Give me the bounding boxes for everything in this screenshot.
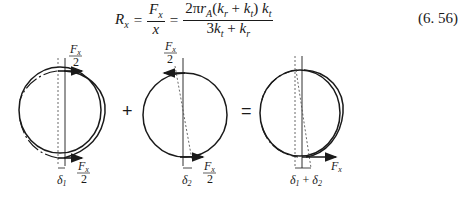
tire-deformation-figure: Fx 2 Fx 2 δ1 + Fx 2 Fx 2 δ2 = Fx δ1 [0, 0, 476, 198]
figure-3-combined-deformation: Fx δ1 + δ2 [260, 56, 343, 188]
label-fx-total: Fx [330, 159, 342, 174]
figure-1-shear-deformation: Fx 2 Fx 2 δ1 [19, 42, 105, 188]
figure-2-rotation-deformation: Fx 2 Fx 2 δ2 [143, 39, 227, 188]
label-delta2: δ2 [182, 173, 192, 188]
svg-text:2: 2 [73, 55, 79, 69]
label-delta-sum: δ1 + δ2 [290, 173, 322, 188]
equals-operator: = [241, 101, 252, 121]
svg-text:2: 2 [81, 172, 87, 186]
label-delta1: δ1 [57, 173, 67, 188]
plus-operator: + [122, 101, 133, 121]
svg-text:2: 2 [207, 172, 213, 186]
svg-text:2: 2 [167, 52, 173, 66]
